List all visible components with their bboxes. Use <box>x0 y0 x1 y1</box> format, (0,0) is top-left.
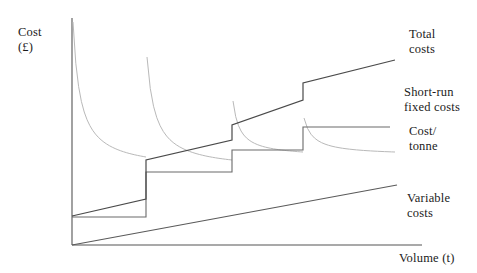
legend-label-cost-per-tonne: Cost/ tonne <box>409 124 438 154</box>
series-variable-costs <box>72 185 397 245</box>
variable-costs-line <box>72 185 397 245</box>
x-axis-label: Volume (t) <box>399 251 455 266</box>
cost-per-tonne-segment-2 <box>147 57 232 160</box>
legend-label-variable-costs: Variable costs <box>407 191 450 221</box>
series-cost-per-tonne <box>73 22 395 160</box>
total-costs-path <box>72 60 395 216</box>
chart-plot-area <box>0 0 477 273</box>
legend-label-total-costs: Total costs <box>409 27 436 57</box>
cost-per-tonne-segment-3 <box>233 101 303 152</box>
cost-per-tonne-segment-4 <box>304 118 395 152</box>
cost-volume-chart: Cost (£) Volume (t) Total costs Short-ru… <box>0 0 477 273</box>
cost-per-tonne-segment-1 <box>73 22 146 157</box>
axes-group <box>72 18 422 245</box>
series-total-costs <box>72 60 395 216</box>
legend-label-short-run-fixed-costs: Short-run fixed costs <box>404 85 460 115</box>
y-axis-label: Cost (£) <box>18 25 42 55</box>
